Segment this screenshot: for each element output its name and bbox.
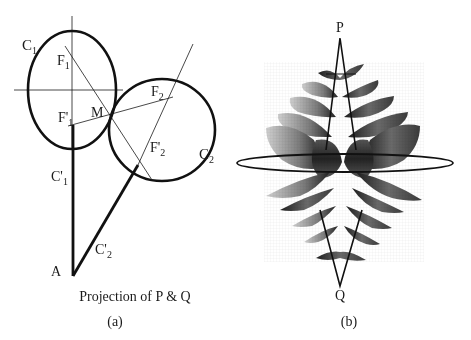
curve-c2-prime [73, 165, 138, 276]
label-p: P [336, 20, 344, 35]
panel-tag-b: (b) [341, 314, 358, 330]
label-c1: C1 [22, 37, 37, 56]
label-f1: F1 [57, 53, 70, 71]
caption-a: Projection of P & Q [79, 289, 190, 304]
panel-a: C1 F1 F'1 M F2 F'2 C2 C'1 C'2 A Projecti… [14, 16, 215, 330]
line-f1prime-f2 [68, 97, 173, 126]
label-m: M [91, 105, 104, 120]
panel-tag-a: (a) [107, 314, 123, 330]
figure-canvas: C1 F1 F'1 M F2 F'2 C2 C'1 C'2 A Projecti… [0, 0, 471, 340]
panel-b: P Q (b) [237, 20, 453, 330]
label-a: A [51, 264, 62, 279]
label-q: Q [335, 288, 345, 303]
label-c1-prime: C'1 [51, 169, 68, 187]
label-f2: F2 [151, 84, 164, 102]
label-f2-prime: F'2 [150, 140, 165, 158]
label-c2-prime: C'2 [95, 242, 112, 260]
label-f1-prime: F'1 [58, 110, 73, 128]
line-f1-f2prime [65, 46, 152, 180]
